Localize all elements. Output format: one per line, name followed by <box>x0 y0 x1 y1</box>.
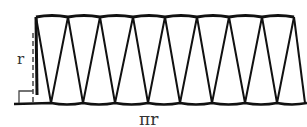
right-angle-marker <box>19 91 33 103</box>
left-edge <box>36 17 37 95</box>
right-edge <box>294 17 305 103</box>
bottom-arc-edge <box>14 103 307 105</box>
base-label: πr <box>139 109 158 127</box>
parallelogram-diagram <box>0 0 307 127</box>
top-arc-edge <box>36 16 294 18</box>
sector-zigzag <box>36 17 294 103</box>
height-label: r <box>17 50 24 68</box>
